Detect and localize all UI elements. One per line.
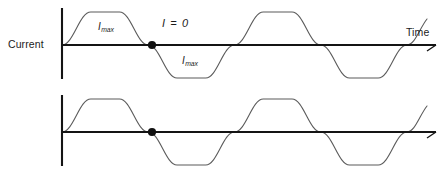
emf-plot-svg [0,88,442,174]
current-peak-label: Imax [98,22,114,32]
current-zero-crossing-dot [148,41,156,49]
current-trough-subscript: max [185,60,198,67]
current-axis-label: Current [8,39,44,50]
emf-waveform-panel: EMF Vmax V = 0 Vmax Time [0,88,442,174]
current-trough-label: Imax [182,56,198,66]
current-zero-label: I = 0 [162,18,189,29]
waveform-diagram: Current Imax I = 0 Imax Time EMF Vmax V … [0,0,442,174]
emf-zero-crossing-dot [148,128,156,136]
current-peak-subscript: max [101,26,114,33]
current-waveform-panel: Current Imax I = 0 Imax Time [0,0,442,88]
current-plot-svg [0,0,442,88]
current-time-axis-label: Time [406,27,429,38]
